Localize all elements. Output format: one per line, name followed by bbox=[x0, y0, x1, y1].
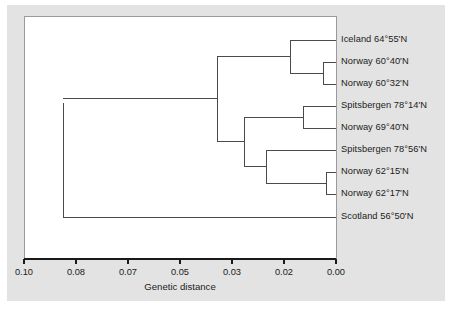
tick-label: 0.08 bbox=[51, 268, 101, 277]
tick-label: 0.07 bbox=[103, 268, 153, 277]
leaf-label: Iceland 64°55'N bbox=[341, 35, 407, 44]
axis-title: Genetic distance bbox=[135, 282, 225, 292]
leaf-label: Spitsbergen 78°56'N bbox=[341, 145, 427, 154]
tree-branches bbox=[63, 40, 336, 217]
tick-label: 0.00 bbox=[311, 268, 361, 277]
leaf-label: Norway 60°40'N bbox=[341, 57, 409, 66]
leaf-label: Scotland 56°50'N bbox=[341, 212, 413, 221]
tick-label: 0.05 bbox=[155, 268, 205, 277]
tick-label: 0.03 bbox=[207, 268, 257, 277]
leaf-label: Norway 60°32'N bbox=[341, 79, 409, 88]
tick-label: 0.10 bbox=[0, 268, 49, 277]
dendrogram-figure: Iceland 64°55'NNorway 60°40'NNorway 60°3… bbox=[0, 0, 459, 321]
x-axis bbox=[24, 259, 336, 264]
leaf-label: Spitsbergen 78°14'N bbox=[341, 101, 427, 110]
tick-label: 0.02 bbox=[259, 268, 309, 277]
leaf-label: Norway 62°15'N bbox=[341, 167, 409, 176]
leaf-label: Norway 69°40'N bbox=[341, 123, 409, 132]
leaf-label: Norway 62°17'N bbox=[341, 189, 409, 198]
